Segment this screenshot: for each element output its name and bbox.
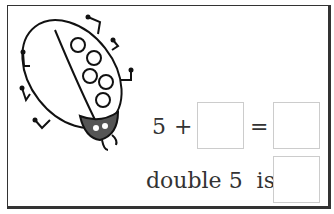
equals-sign: = — [250, 116, 268, 138]
answer-box-sum[interactable] — [273, 102, 320, 149]
plus-sign: + — [174, 116, 192, 138]
answer-box-addend[interactable] — [197, 102, 244, 149]
addend: 5 — [152, 116, 166, 138]
double-label: double 5 is — [146, 170, 275, 192]
answer-box-double[interactable] — [273, 156, 320, 203]
